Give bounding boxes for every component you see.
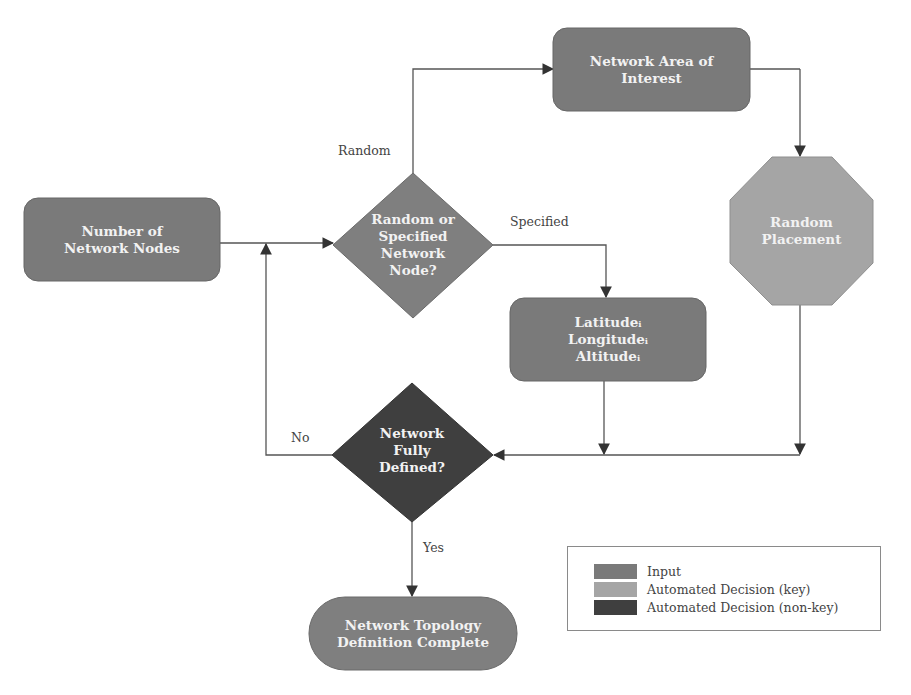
- node-network-area-of-interest: [553, 28, 750, 111]
- legend-item-automated-key: Automated Decision (key): [594, 582, 811, 597]
- edge-specified: [493, 245, 606, 297]
- legend-item-automated-nonkey: Automated Decision (non-key): [594, 600, 838, 615]
- node-network-fully-defined-decision: [332, 383, 493, 522]
- node-random-placement: [730, 157, 873, 305]
- node-topology-complete: [309, 597, 517, 670]
- legend-swatch-automated-nonkey: [594, 600, 637, 615]
- legend-label-automated-nonkey: Automated Decision (non-key): [647, 600, 838, 615]
- legend-swatch-automated-key: [594, 582, 637, 597]
- legend-label-input: Input: [647, 564, 681, 579]
- edge-label-random: Random: [338, 143, 391, 158]
- node-lat-long-alt: [510, 298, 706, 381]
- edge-no-loop: [266, 244, 332, 455]
- legend: Input Automated Decision (key) Automated…: [567, 546, 881, 631]
- legend-swatch-input: [594, 564, 637, 579]
- edge-random: [413, 69, 553, 173]
- node-number-of-network-nodes: [24, 198, 220, 281]
- edge-label-yes: Yes: [423, 540, 444, 555]
- legend-label-automated-key: Automated Decision (key): [647, 582, 811, 597]
- edge-label-no: No: [291, 430, 309, 445]
- node-random-or-specified-decision: [333, 173, 493, 318]
- edge-label-specified: Specified: [510, 214, 569, 229]
- legend-item-input: Input: [594, 564, 681, 579]
